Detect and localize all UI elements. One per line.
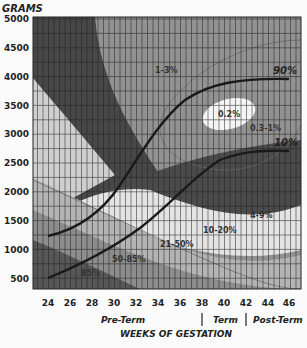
svg-text:3500: 3500 xyxy=(4,101,29,111)
zone-label-10-20: 10-20% xyxy=(203,226,237,235)
svg-text:26: 26 xyxy=(64,298,77,308)
x-axis-title: WEEKS OF GESTATION xyxy=(120,329,232,339)
svg-text:42: 42 xyxy=(240,298,253,308)
period-postterm: Post-Term xyxy=(253,315,303,325)
mortality-chart: 1-3% 0.2% 0.3-1% 4-9% 10-20% 21-50% 50-8… xyxy=(0,0,307,348)
svg-text:38: 38 xyxy=(196,298,209,308)
zone-label-85: 85% xyxy=(81,269,100,278)
svg-text:34: 34 xyxy=(152,298,165,308)
svg-text:30: 30 xyxy=(108,298,121,308)
svg-text:32: 32 xyxy=(130,298,143,308)
y-axis-ticks: 5000 4500 4000 3500 3000 2500 2000 1500 … xyxy=(4,14,29,284)
svg-text:4500: 4500 xyxy=(4,43,29,53)
svg-text:1500: 1500 xyxy=(4,216,29,226)
svg-text:3000: 3000 xyxy=(4,129,29,139)
zone-label-1-3: 1-3% xyxy=(155,66,177,75)
svg-text:2000: 2000 xyxy=(4,187,29,197)
period-preterm: Pre-Term xyxy=(101,315,145,325)
zone-label-50-85: 50-85% xyxy=(112,255,146,264)
svg-text:2500: 2500 xyxy=(4,158,29,168)
svg-text:1000: 1000 xyxy=(4,245,29,255)
svg-text:46: 46 xyxy=(283,298,296,308)
svg-text:500: 500 xyxy=(10,274,29,284)
svg-text:24: 24 xyxy=(42,298,55,308)
svg-text:40: 40 xyxy=(218,298,231,308)
x-axis-ticks: 24 26 28 30 32 34 36 38 40 42 44 46 xyxy=(42,298,296,308)
curve-label-10: 10% xyxy=(274,137,298,148)
zone-label-4-9: 4-9% xyxy=(250,211,272,220)
zone-label-0-3-1: 0.3-1% xyxy=(250,124,281,133)
curve-label-90: 90% xyxy=(273,65,297,76)
svg-text:4000: 4000 xyxy=(4,72,29,82)
svg-text:5000: 5000 xyxy=(4,14,29,24)
zone-label-0-2: 0.2% xyxy=(218,110,240,119)
svg-text:36: 36 xyxy=(174,298,187,308)
zone-label-21-50: 21-50% xyxy=(160,240,194,249)
period-term: Term xyxy=(213,315,238,325)
svg-text:44: 44 xyxy=(262,298,275,308)
svg-text:28: 28 xyxy=(86,298,99,308)
